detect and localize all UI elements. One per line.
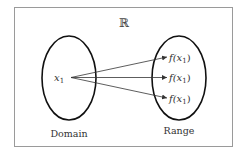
domain-label: Domain: [50, 128, 87, 139]
range-element-2: f(x1): [168, 72, 191, 85]
range-label: Range: [164, 125, 195, 136]
range-element-3: f(x1): [168, 93, 191, 106]
domain-ellipse: [42, 36, 96, 120]
function-mapping-diagram: ℝ x1 f(x1) f(x1) f(x1) Domain Range: [0, 0, 246, 154]
domain-element: x1: [54, 72, 64, 85]
real-numbers-symbol: ℝ: [119, 16, 130, 30]
range-element-1: f(x1): [168, 52, 191, 65]
